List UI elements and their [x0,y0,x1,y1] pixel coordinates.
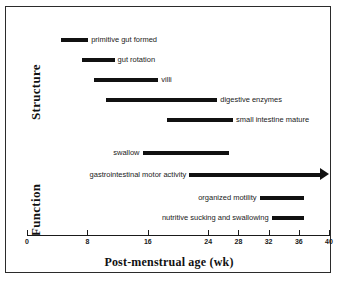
x-tick-label-40: 40 [325,238,333,245]
x-tick-40 [329,230,330,236]
x-tick-label-32: 32 [265,238,273,245]
bar-row: villi [6,73,332,87]
x-tick-24 [208,230,209,236]
chart-figure: Structure Function primitive gut formedg… [0,0,338,281]
bar-row: primitive gut formed [6,33,332,47]
x-tick-0 [27,230,28,236]
bar-row: gastrointestinal motor activity [6,168,332,182]
bar-segment [82,58,114,62]
x-axis-line [27,235,329,236]
bar-label: nutritive sucking and swallowing [162,211,269,225]
x-tick-8 [87,230,88,236]
bar-label: villi [161,73,171,87]
bar-segment [143,151,229,155]
plot-frame: Structure Function primitive gut formedg… [5,6,331,273]
bar-segment [106,98,217,102]
bar-label: organized motility [198,191,256,205]
x-tick-28 [238,230,239,236]
x-tick-label-16: 16 [144,238,152,245]
bar-segment [189,173,321,177]
bar-label: gastrointestinal motor activity [90,168,187,182]
x-tick-16 [148,230,149,236]
bar-arrowhead-icon [320,168,329,180]
bar-segment [260,196,305,200]
x-tick-label-0: 0 [25,238,29,245]
bar-row: nutritive sucking and swallowing [6,211,332,225]
bar-label: primitive gut formed [91,33,157,47]
bar-segment [167,118,233,122]
bar-label: gut rotation [118,53,156,67]
bar-row: organized motility [6,191,332,205]
x-axis-title: Post-menstrual age (wk) [6,255,332,270]
bar-row: small intestine mature [6,113,332,127]
x-tick-label-24: 24 [204,238,212,245]
bar-label: small intestine mature [236,113,309,127]
bar-segment [61,38,88,42]
x-tick-36 [299,230,300,236]
bar-label: digestive enzymes [220,93,282,107]
bar-row: gut rotation [6,53,332,67]
bar-segment [94,78,158,82]
bar-row: swallow [6,146,332,160]
bar-label: swallow [113,146,139,160]
bar-row: digestive enzymes [6,93,332,107]
x-tick-32 [269,230,270,236]
x-tick-label-8: 8 [85,238,89,245]
x-tick-label-28: 28 [234,238,242,245]
bar-segment [272,216,304,220]
x-tick-label-36: 36 [295,238,303,245]
